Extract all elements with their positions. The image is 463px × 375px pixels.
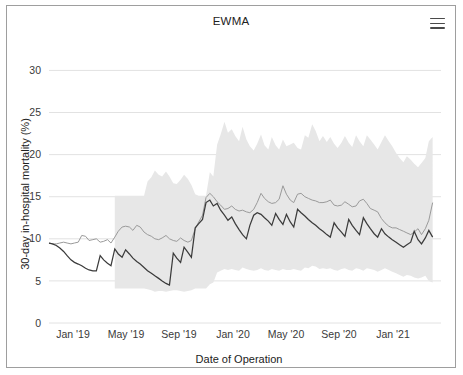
control-limit-band	[115, 122, 433, 292]
y-tick-label: 15	[29, 190, 41, 202]
y-tick-label: 10	[29, 232, 41, 244]
x-tick-label: Jan '19	[56, 328, 90, 340]
y-tick-label: 30	[29, 64, 41, 76]
x-tick-label: Sep '19	[161, 328, 196, 340]
x-axis-title: Date of Operation	[196, 353, 283, 365]
y-tick-label: 25	[29, 106, 41, 118]
x-tick-label: May '20	[268, 328, 305, 340]
chart-plot-area: 051015202530 Jan '19May '19Sep '19Jan '2…	[7, 6, 457, 369]
control-limit-band	[115, 122, 433, 292]
chart-card: EWMA 051015202530 Jan '19May '19Sep '19J…	[6, 5, 456, 368]
y-tick-label: 5	[35, 275, 41, 287]
x-tick-label: May '19	[108, 328, 145, 340]
y-tick-label: 0	[35, 317, 41, 329]
y-tick-label: 20	[29, 148, 41, 160]
y-axis-title: 30-day in-hospital mortality (%)	[19, 118, 31, 270]
ewma-line-chart: 051015202530 Jan '19May '19Sep '19Jan '2…	[7, 6, 457, 369]
x-tick-label: Jan '21	[376, 328, 410, 340]
x-tick-label: Sep '20	[321, 328, 356, 340]
x-tick-label: Jan '20	[216, 328, 250, 340]
y-axis-tick-labels: 051015202530	[29, 64, 41, 329]
x-axis-tick-labels: Jan '19May '19Sep '19Jan '20May '20Sep '…	[56, 328, 410, 340]
